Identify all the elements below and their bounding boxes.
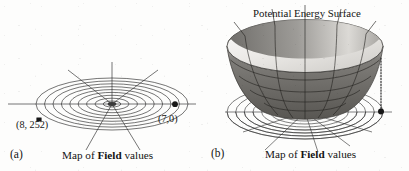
panel-a-coordinate-label-right: (7,0) bbox=[158, 114, 178, 124]
panel-a-coordinate-label-left: (8, 252) bbox=[16, 120, 48, 130]
panel-a-caption-bold-term: Field bbox=[97, 149, 121, 161]
figure-canvas bbox=[0, 0, 409, 171]
panel-b-label: (b) bbox=[211, 148, 224, 160]
panel-a-caption-suffix: values bbox=[122, 149, 153, 161]
panel-a-caption-prefix: Map of bbox=[62, 149, 97, 161]
panel-a-point-marker-right bbox=[172, 101, 178, 107]
panel-a-contour-map bbox=[8, 62, 196, 150]
panel-b-surface-title: Potential Energy Surface bbox=[253, 8, 361, 19]
panel-b-caption-suffix: values bbox=[325, 148, 356, 160]
panel-b-caption-prefix: Map of bbox=[265, 148, 300, 160]
panel-b-point-marker bbox=[378, 109, 384, 115]
panel-a-label: (a) bbox=[10, 149, 23, 161]
panel-a-center-minimum bbox=[108, 102, 116, 106]
panel-a-caption: Map of Field values bbox=[62, 150, 153, 161]
panel-b-caption-bold-term: Field bbox=[300, 148, 324, 160]
figure-potential-energy-surface: (8, 252) (7,0) (a) Map of Field values P… bbox=[0, 0, 409, 171]
panel-b-caption: Map of Field values bbox=[265, 149, 356, 160]
panel-b-potential-energy-surface bbox=[227, 5, 383, 119]
